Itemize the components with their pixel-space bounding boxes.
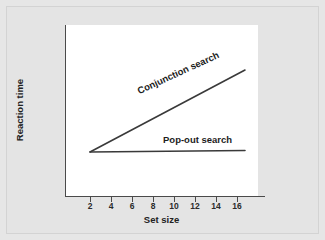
x-tick-label: 12: [186, 201, 204, 211]
x-axis-title: Set size: [65, 214, 258, 225]
x-tick-label: 4: [102, 201, 120, 211]
x-tick-label: 2: [81, 201, 99, 211]
x-tick-label: 14: [207, 201, 225, 211]
x-tick-label: 10: [165, 201, 183, 211]
y-axis-title: Reaction time: [14, 60, 25, 160]
x-tick-label: 6: [123, 201, 141, 211]
x-tick-label: 8: [144, 201, 162, 211]
x-tick-label: 16: [228, 201, 246, 211]
chart-figure: 2 4 6 8 10 12 14 16 Set size Reaction ti…: [0, 0, 325, 240]
series-line-popout: [90, 151, 245, 153]
series-label-popout-search: Pop-out search: [163, 134, 232, 145]
series-lines-svg: [0, 0, 325, 240]
